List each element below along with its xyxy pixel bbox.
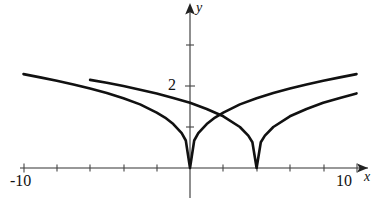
x-tick-label-max: 10 [336,173,352,189]
plot-canvas [0,0,381,204]
curve-cusp-four [90,80,356,168]
y-axis-label: y [196,1,202,15]
y-tick-label-two: 2 [168,77,176,93]
x-axis-label: x [364,170,370,184]
graph-figure: y x -10 10 2 [0,0,381,204]
x-tick-label-min: -10 [10,173,31,189]
